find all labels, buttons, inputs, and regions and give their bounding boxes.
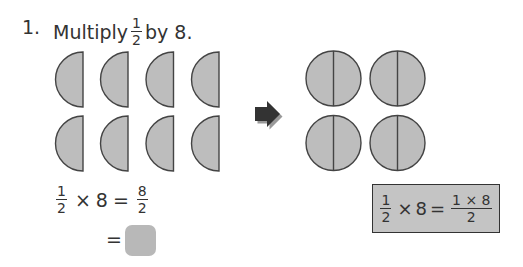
lhs-fraction: 1 2 <box>56 184 67 215</box>
times-sign: × <box>397 198 412 219</box>
whole-circle-icon <box>306 51 361 106</box>
fraction-denominator: 2 <box>57 200 66 215</box>
answer-input-box[interactable] <box>125 225 156 256</box>
times-sign: × <box>75 189 91 211</box>
formula-box: 1 2 × 8 = 1 × 8 2 <box>372 184 500 233</box>
factor: 8 <box>416 198 427 219</box>
half-circles-group <box>56 52 220 171</box>
fraction-numerator: 8 <box>137 184 148 200</box>
half-circle-icon <box>101 52 128 107</box>
fraction-denominator: 2 <box>381 209 390 224</box>
fraction-numerator: 1 <box>56 184 67 200</box>
lhs-fraction: 1 2 <box>380 193 391 224</box>
whole-circles-group <box>306 51 425 171</box>
rhs-fraction: 8 2 <box>137 184 148 215</box>
equals-sign: = <box>106 228 122 250</box>
fraction-numerator: 1 × 8 <box>451 193 491 209</box>
whole-circle-icon <box>370 116 425 171</box>
fraction-denominator: 2 <box>467 209 476 224</box>
equation-2: = <box>106 228 122 250</box>
half-circle-icon <box>192 52 219 107</box>
right-arrow-icon <box>255 101 283 130</box>
half-circle-icon <box>191 116 219 171</box>
half-circle-icon <box>146 116 174 171</box>
half-circle-icon <box>100 116 128 171</box>
whole-circle-icon <box>306 116 361 171</box>
half-circle-icon <box>56 116 84 171</box>
equation-1: 1 2 × 8 = 8 2 <box>53 184 151 215</box>
rhs-fraction: 1 × 8 2 <box>451 193 491 224</box>
fraction-denominator: 2 <box>138 200 147 215</box>
equals-sign: = <box>430 198 445 219</box>
factor: 8 <box>96 189 108 211</box>
fraction-numerator: 1 <box>380 193 391 209</box>
whole-circle-icon <box>370 51 425 106</box>
equals-sign: = <box>113 189 129 211</box>
half-circle-icon <box>56 52 83 107</box>
formula-equation: 1 2 × 8 = 1 × 8 2 <box>377 193 494 224</box>
half-circle-icon <box>146 52 173 107</box>
